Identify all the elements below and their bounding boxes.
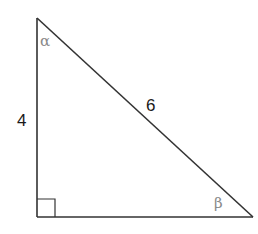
angle-alpha-label: α: [40, 34, 50, 49]
hypotenuse-line: [37, 18, 253, 217]
vertical-side-label: 4: [17, 112, 26, 129]
right-angle-marker: [37, 199, 55, 217]
angle-beta-label: β: [214, 196, 223, 211]
hypotenuse-label: 6: [146, 97, 155, 114]
